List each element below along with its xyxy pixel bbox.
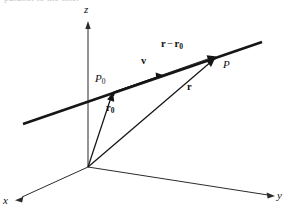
point-P0-marker (112, 93, 115, 96)
point-P0-letter: P (95, 72, 102, 84)
vector-r-minus-r0-group (114, 55, 215, 92)
z-axis-arrowhead (85, 21, 90, 29)
y-axis-arrowhead (267, 193, 275, 199)
point-P-label: P (223, 59, 230, 70)
y-axis-line (88, 167, 268, 195)
y-axis-label: y (277, 190, 282, 201)
vector-r0-label: r0 (106, 103, 114, 115)
vector-diff-minus-sign: − (166, 38, 175, 49)
x-axis-label: x (3, 195, 8, 206)
z-axis-label: z (84, 4, 88, 15)
point-P0-label: P0 (95, 73, 105, 86)
x-axis-arrowhead (15, 197, 23, 203)
point-P0-subscript: 0 (102, 77, 106, 86)
axes-group (15, 21, 275, 203)
diagram-canvas (0, 0, 291, 214)
vector-r0-subscript: 0 (111, 106, 115, 115)
vector-r-minus-r0-label: r−r0 (161, 39, 183, 51)
vector-v-label: v (141, 56, 146, 67)
vector-r-label: r (187, 82, 192, 93)
vector-r-shaft (88, 64, 209, 168)
vector-diff-subscript: 0 (179, 42, 183, 51)
vector-line-diagram: parallel to the line. (0, 0, 291, 214)
x-axis-line (22, 167, 88, 197)
point-P-marker (213, 56, 216, 59)
vector-diff-first-letter: r (161, 38, 166, 49)
